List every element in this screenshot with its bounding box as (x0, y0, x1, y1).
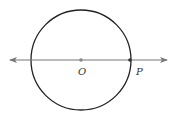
point-p (128, 58, 132, 62)
label-p: P (135, 66, 143, 77)
point-o (79, 58, 83, 62)
label-o: O (78, 66, 86, 77)
circle-diagram: O P (0, 0, 177, 120)
